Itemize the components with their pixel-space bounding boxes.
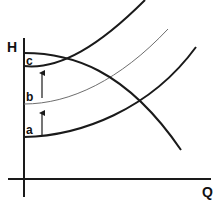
system-curve-b — [24, 29, 168, 104]
label-c: c — [26, 54, 33, 68]
x-axis-label: Q — [202, 184, 213, 200]
label-b: b — [26, 90, 33, 104]
pump-system-diagram: H Q c b a — [0, 0, 222, 209]
label-a: a — [26, 123, 33, 137]
y-axis-label: H — [7, 39, 17, 55]
system-curve-a — [24, 47, 196, 137]
system-curve-c — [24, 0, 145, 66]
